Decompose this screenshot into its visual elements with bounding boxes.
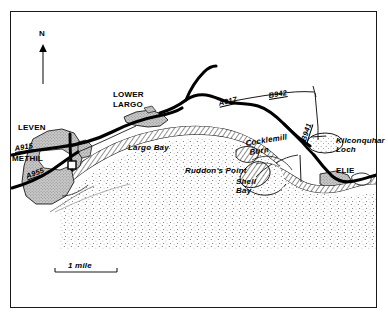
town-label-elie: ELIE — [336, 167, 355, 175]
water-label-kilconquhar-line2: Loch — [336, 146, 356, 154]
water-label-largo-bay: Largo Bay — [128, 144, 169, 152]
map-figure: N LEVEN METHIL LOWER LARGO ELIE Largo Ba… — [0, 0, 388, 321]
town-label-lower-largo-line2: LARGO — [113, 101, 143, 109]
road-minor-north-south — [315, 93, 318, 140]
scale-bar-label: 1 mile — [68, 262, 92, 270]
water-label-shell-bay-line2: Bay — [236, 187, 251, 195]
town-label-methil: METHIL — [12, 155, 43, 163]
town-label-lower-largo-line1: LOWER — [113, 91, 144, 99]
north-arrow-label: N — [39, 30, 45, 38]
headland-label-ruddons-point: Ruddon's Point — [185, 167, 247, 175]
town-label-leven: LEVEN — [18, 124, 46, 132]
road-kilconquhar-lane — [300, 155, 301, 182]
methil-harbour-marker — [68, 161, 76, 169]
north-arrow-head — [39, 44, 47, 52]
map-drawing — [0, 0, 388, 321]
